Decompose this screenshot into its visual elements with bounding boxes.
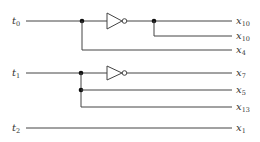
input-t0-label: t0 [12, 15, 20, 28]
inv1-branch-wire [154, 21, 232, 36]
logic-circuit-diagram: t0 x10 x10 x4 t1 x7 x5 x13 [0, 0, 260, 142]
output-label-x5: x5 [236, 84, 246, 97]
inverter-gate-2 [107, 66, 127, 80]
inverter-bubble [122, 19, 127, 24]
svg-text:t0: t0 [12, 15, 20, 28]
output-label-x13: x13 [236, 101, 250, 114]
inverter-triangle [107, 13, 122, 29]
svg-text:t2: t2 [12, 122, 20, 135]
inverter-bubble [122, 71, 127, 76]
svg-text:x13: x13 [236, 101, 250, 114]
svg-text:t1: t1 [12, 67, 20, 80]
input-t2-label: t2 [12, 122, 20, 135]
svg-text:x5: x5 [236, 84, 246, 97]
svg-text:x1: x1 [236, 122, 246, 135]
inverter-triangle [107, 66, 122, 80]
input-t1-label: t1 [12, 67, 20, 80]
output-label-x10-b: x10 [236, 30, 250, 43]
inverter-gate-1 [107, 13, 127, 29]
output-label-x7: x7 [236, 67, 246, 80]
svg-text:x10: x10 [236, 30, 250, 43]
svg-text:x4: x4 [236, 44, 246, 57]
svg-text:x7: x7 [236, 67, 246, 80]
output-label-x10-a: x10 [236, 15, 250, 28]
svg-text:x10: x10 [236, 15, 250, 28]
output-label-x1: x1 [236, 122, 246, 135]
output-label-x4: x4 [236, 44, 246, 57]
